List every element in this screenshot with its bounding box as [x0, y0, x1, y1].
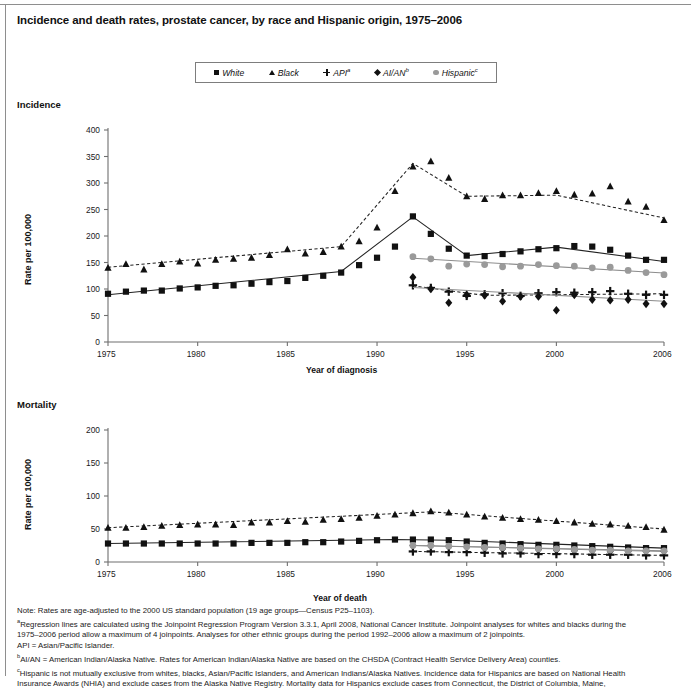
mortality-point-black-1993	[427, 507, 434, 514]
incidence-point-ai-an-2002	[589, 295, 596, 304]
mortality-point-hispanic-2002	[589, 547, 596, 554]
incidence-point-ai-an-1994	[445, 298, 452, 307]
footnote-b-1-text: AI/AN = American Indian/Alaska Native. R…	[20, 655, 560, 664]
mortality-point-white-1980	[195, 540, 201, 546]
incidence-point-black-2002	[589, 190, 596, 197]
incidence-x-tick-2006: 2006	[653, 349, 672, 359]
incidence-x-axis-title: Year of diagnosis	[306, 365, 377, 375]
incidence-point-white-2004	[625, 253, 631, 259]
legend-marker-circle	[433, 70, 439, 76]
incidence-point-white-1975	[105, 291, 111, 297]
legend-label-black: Black	[278, 68, 299, 78]
mortality-point-hispanic-2006	[661, 547, 668, 554]
incidence-y-tick-0: 0	[68, 337, 100, 347]
incidence-point-hispanic-2004	[625, 267, 632, 274]
mortality-point-white-1990	[374, 537, 380, 543]
mortality-point-white-1975	[105, 540, 111, 546]
mortality-x-tick-2006: 2006	[653, 569, 672, 579]
mortality-point-black-2000	[553, 517, 560, 524]
mortality-point-hispanic-1997	[499, 544, 506, 551]
legend-label-white: White	[222, 68, 244, 78]
incidence-point-black-1992	[409, 163, 416, 170]
mortality-x-tick-2000: 2000	[545, 569, 564, 579]
incidence-point-hispanic-2005	[643, 269, 650, 276]
incidence-point-white-1979	[177, 285, 183, 291]
mortality-point-white-1976	[123, 540, 129, 546]
incidence-point-hispanic-1996	[481, 261, 488, 268]
incidence-point-hispanic-1992	[410, 253, 417, 260]
mortality-point-white-1984	[266, 540, 272, 546]
incidence-point-black-1987	[320, 248, 327, 255]
incidence-point-hispanic-1993	[427, 255, 434, 262]
incidence-point-black-1998	[517, 191, 524, 198]
incidence-point-white-1982	[230, 282, 236, 288]
footnote-a-1-text: Regression lines are calculated using th…	[20, 620, 626, 629]
mortality-x-tick-1980: 1980	[187, 569, 206, 579]
incidence-plot	[0, 120, 691, 365]
mortality-point-black-2001	[571, 519, 578, 526]
incidence-y-tick-50: 50	[68, 311, 100, 321]
incidence-point-hispanic-1997	[499, 263, 506, 270]
incidence-point-white-1992	[410, 213, 416, 219]
mortality-y-tick-150: 150	[68, 458, 100, 468]
incidence-point-black-1999	[535, 189, 542, 196]
incidence-panel-label: Incidence	[17, 99, 61, 110]
mortality-point-black-2004	[625, 522, 632, 529]
incidence-point-white-1987	[320, 273, 326, 279]
figure-title: Incidence and death rates, prostate canc…	[17, 14, 462, 26]
footnote-c-1: cHispanic is not mutually exclusive from…	[17, 665, 685, 679]
incidence-point-black-1981	[212, 256, 219, 263]
incidence-x-tick-1990: 1990	[366, 349, 385, 359]
incidence-point-ai-an-1992	[409, 273, 416, 282]
mortality-x-tick-1985: 1985	[276, 569, 295, 579]
incidence-point-black-1980	[194, 260, 201, 267]
incidence-point-api-2002	[588, 288, 596, 296]
incidence-point-ai-an-1997	[499, 297, 506, 306]
incidence-point-api-1992	[409, 281, 417, 289]
incidence-point-white-2001	[571, 243, 577, 249]
incidence-point-black-1976	[122, 260, 129, 267]
mortality-point-hispanic-2004	[625, 547, 632, 554]
incidence-point-ai-an-2004	[625, 295, 632, 304]
incidence-fitline-black	[108, 163, 664, 267]
mortality-point-black-2005	[642, 523, 649, 530]
incidence-point-ai-an-1995	[463, 291, 470, 300]
incidence-point-api-2003	[606, 287, 614, 295]
mortality-point-black-1981	[212, 521, 219, 528]
legend-label-ai-an: AI/ANb	[383, 67, 409, 78]
incidence-point-black-2005	[642, 203, 649, 210]
incidence-y-tick-350: 350	[68, 152, 100, 162]
incidence-point-white-2002	[589, 244, 595, 250]
mortality-point-black-1990	[373, 512, 380, 519]
incidence-point-white-1985	[284, 278, 290, 284]
incidence-point-white-1978	[159, 287, 165, 293]
incidence-x-tick-2000: 2000	[545, 349, 564, 359]
incidence-point-api-2005	[642, 291, 650, 299]
legend-marker-square	[214, 70, 219, 75]
incidence-point-black-1990	[373, 224, 380, 231]
incidence-series-white	[105, 213, 667, 297]
figure-footnotes: Note: Rates are age-adjusted to the 2000…	[17, 606, 685, 690]
incidence-point-white-1981	[213, 283, 219, 289]
mortality-point-hispanic-1998	[517, 545, 524, 552]
incidence-point-white-1991	[392, 244, 398, 250]
incidence-point-white-1980	[195, 284, 201, 290]
incidence-point-white-1990	[374, 255, 380, 261]
incidence-point-hispanic-2006	[661, 271, 668, 278]
mortality-point-hispanic-2001	[571, 546, 578, 553]
mortality-y-tick-200: 200	[68, 425, 100, 435]
mortality-x-axis-title: Year of death	[313, 593, 367, 603]
mortality-point-white-1981	[213, 540, 219, 546]
incidence-point-white-1994	[446, 246, 452, 252]
mortality-x-tick-1995: 1995	[456, 569, 475, 579]
mortality-series-black	[104, 507, 667, 532]
incidence-point-ai-an-1996	[481, 291, 488, 300]
mortality-point-hispanic-1996	[481, 544, 488, 551]
mortality-point-hispanic-1999	[535, 545, 542, 552]
mortality-point-white-1979	[177, 540, 183, 546]
incidence-point-black-1977	[140, 266, 147, 273]
incidence-y-tick-250: 250	[68, 205, 100, 215]
incidence-point-hispanic-2003	[607, 264, 614, 271]
mortality-point-white-1987	[320, 539, 326, 545]
